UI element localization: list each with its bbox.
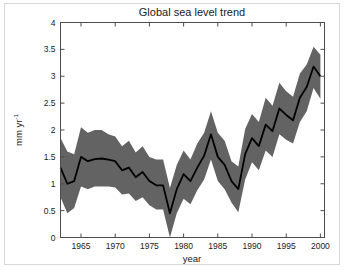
figure-canvas: 19651970197519801985199019952000 00.511.… bbox=[0, 0, 344, 271]
sea-level-trend-chart: 19651970197519801985199019952000 00.511.… bbox=[0, 0, 344, 271]
y-axis-label: mm yr-1 bbox=[12, 114, 24, 146]
y-tick-label: 2 bbox=[51, 125, 56, 135]
x-tick-label: 2000 bbox=[311, 241, 330, 251]
y-tick-label: 3.5 bbox=[44, 44, 56, 54]
x-tick-label: 1970 bbox=[106, 241, 125, 251]
y-tick-label: 1 bbox=[51, 179, 56, 189]
x-tick-label: 1975 bbox=[140, 241, 159, 251]
uncertainty-band-fill bbox=[61, 47, 321, 238]
uncertainty-band bbox=[61, 47, 321, 238]
y-tick-label: 0.5 bbox=[44, 206, 56, 216]
y-tick-label: 0 bbox=[51, 233, 56, 243]
y-axis-label-exponent: -1 bbox=[12, 114, 19, 120]
x-tick-label: 1985 bbox=[208, 241, 227, 251]
x-tick-label: 1965 bbox=[72, 241, 91, 251]
chart-title: Global sea level trend bbox=[139, 6, 245, 18]
x-axis-label: year bbox=[183, 253, 201, 264]
y-tick-label: 2.5 bbox=[44, 98, 56, 108]
x-tick-label: 1990 bbox=[243, 241, 262, 251]
y-tick-label: 4 bbox=[51, 18, 56, 28]
y-tick-label: 3 bbox=[51, 71, 56, 81]
y-axis-label-text: mm yr bbox=[13, 120, 24, 146]
svg-text:mm yr-1: mm yr-1 bbox=[12, 114, 24, 146]
y-tick-label: 1.5 bbox=[44, 152, 56, 162]
x-tick-label: 1995 bbox=[277, 241, 296, 251]
x-tick-label: 1980 bbox=[174, 241, 193, 251]
